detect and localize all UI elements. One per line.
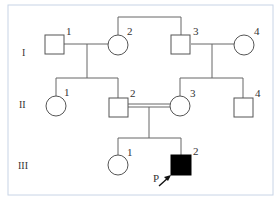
individual-number: 2: [193, 145, 199, 157]
individual-I4-female: [234, 35, 254, 55]
generation-label-II: II: [19, 99, 26, 110]
pedigree-lines: [56, 17, 243, 156]
individual-number: 2: [127, 25, 133, 37]
individual-number: 4: [254, 25, 260, 37]
individual-number: 1: [64, 86, 70, 98]
individual-II3-female: [170, 96, 190, 116]
individual-number: 1: [66, 25, 72, 37]
individual-II1-female: [46, 96, 66, 116]
pedigree-diagram: I II III 1 2 3 4 1 2: [0, 0, 278, 203]
generation-label-III: III: [18, 160, 28, 171]
individual-I2-female: [108, 35, 128, 55]
individual-III1-female: [108, 155, 128, 175]
individual-III2-affected-male: [171, 155, 191, 175]
individual-I1-male: [45, 35, 64, 54]
individual-II4-male: [234, 98, 253, 117]
individual-number: 3: [190, 87, 196, 99]
proband-label: P: [153, 172, 159, 184]
individual-number: 3: [193, 25, 199, 37]
individual-number: 1: [127, 146, 133, 158]
individual-I3-male: [171, 35, 190, 54]
proband-arrow-icon: [159, 175, 171, 186]
individual-II2-male: [109, 98, 128, 117]
individual-number: 4: [255, 87, 261, 99]
generation-label-I: I: [22, 47, 25, 58]
individual-number: 2: [130, 87, 136, 99]
